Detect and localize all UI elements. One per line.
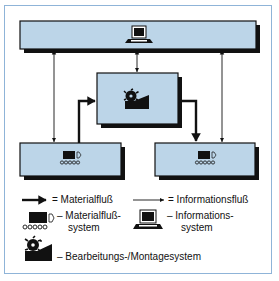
legend-material-flow-system-label-line2: system: [68, 222, 100, 233]
legend-machining-system-label: – Bearbeitungs-/Montagesystem: [57, 251, 201, 262]
legend-computer-icon: [133, 210, 163, 229]
legend-information-flow-label: = Informationsfluß: [168, 194, 248, 205]
legend-material-flow-system-label-line1: – Materialfluß-: [57, 210, 121, 221]
legend-conveyor-icon: [23, 212, 54, 229]
legend-material-flow-label: = Materialfluß: [52, 194, 113, 205]
legend-information-system-label-line2: system: [181, 222, 213, 233]
legend-milling-cutter-icon: [25, 236, 52, 261]
material-flow-system-right-box: [155, 143, 259, 180]
legend-information-system-label-line1: – Informations-: [167, 210, 234, 221]
diagram-canvas: [0, 0, 279, 281]
material-flow-arrow-in: [79, 101, 95, 143]
